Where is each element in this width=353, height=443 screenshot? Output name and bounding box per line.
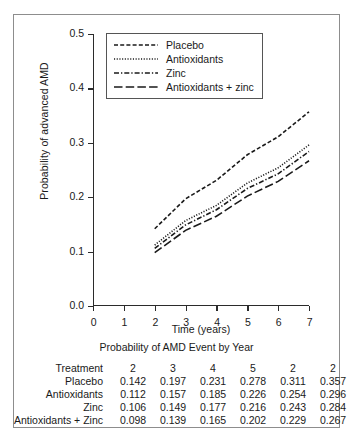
table-row-label: Antioxidants <box>14 387 113 400</box>
y-axis-title: Probability of advanced AMD <box>38 41 50 221</box>
legend-item-antioxidants-zinc: Antioxidants + zinc <box>113 80 254 94</box>
table-cell: 0.267 <box>313 414 353 427</box>
y-tick-label-0.4: 0.4 <box>69 81 84 93</box>
chart-legend: PlaceboAntioxidantsZincAntioxidants + zi… <box>106 33 263 99</box>
x-tick-7: 7 <box>309 306 310 311</box>
table-cell: 0.229 <box>273 414 313 427</box>
x-tick-4: 4 <box>216 306 217 311</box>
table-cell: 0.278 <box>233 374 273 387</box>
legend-item-placebo: Placebo <box>113 38 254 52</box>
x-tick-1: 1 <box>124 306 125 311</box>
legend-label: Placebo <box>166 39 204 51</box>
table-cell: 0.202 <box>233 414 273 427</box>
table-cell: 0.112 <box>113 387 153 400</box>
table-cell: 0.142 <box>113 374 153 387</box>
table-cell: 0.185 <box>193 387 233 400</box>
amd-probability-table: Treatment234522 Placebo0.1420.1970.2310.… <box>14 361 353 427</box>
table-col-header: 2 <box>273 361 313 374</box>
table-title: Probability of AMD Event by Year <box>14 341 339 353</box>
series-line-antioxidants <box>155 145 309 245</box>
table-row-label: Antioxidants + Zinc <box>14 414 113 427</box>
table-row-label: Zinc <box>14 401 113 414</box>
table-cell: 0.098 <box>113 414 153 427</box>
legend-line-swatch <box>113 67 159 79</box>
table-col-header: 5 <box>233 361 273 374</box>
table-head: Treatment234522 <box>14 361 353 374</box>
x-tick-3: 3 <box>186 306 187 311</box>
legend-label: Antioxidants + zinc <box>166 81 254 93</box>
data-table-block: Probability of AMD Event by Year Treatme… <box>14 341 339 427</box>
table-corner-header: Treatment <box>14 361 113 374</box>
table-cell: 0.284 <box>313 401 353 414</box>
table-cell: 0.177 <box>193 401 233 414</box>
y-tick-label-0.2: 0.2 <box>69 190 84 202</box>
y-tick-label-0.5: 0.5 <box>69 27 84 39</box>
table-cell: 0.311 <box>273 374 313 387</box>
figure-frame: Probability of advanced AMD 0.00.10.20.3… <box>13 14 340 428</box>
x-axis-title: Time (years) <box>93 323 309 335</box>
table-cell: 0.149 <box>153 401 193 414</box>
y-tick-label-0.3: 0.3 <box>69 136 84 148</box>
x-tick-5: 5 <box>247 306 248 311</box>
y-tick-label-0.0: 0.0 <box>69 299 84 311</box>
legend-item-zinc: Zinc <box>113 66 254 80</box>
table-col-header: 2 <box>313 361 353 374</box>
table-cell: 0.106 <box>113 401 153 414</box>
legend-label: Antioxidants <box>166 53 223 65</box>
x-tick-6: 6 <box>278 306 279 311</box>
plot-panel: Probability of advanced AMD 0.00.10.20.3… <box>14 15 339 315</box>
y-tick-label-0.1: 0.1 <box>69 245 84 257</box>
table-col-header: 4 <box>193 361 233 374</box>
table-row: Antioxidants0.1120.1570.1850.2260.2540.2… <box>14 387 353 400</box>
table-cell: 0.139 <box>153 414 193 427</box>
table-header-row: Treatment234522 <box>14 361 353 374</box>
table-cell: 0.197 <box>153 374 193 387</box>
series-line-placebo <box>155 112 309 229</box>
legend-item-antioxidants: Antioxidants <box>113 52 254 66</box>
table-row-label: Placebo <box>14 374 113 387</box>
table-cell: 0.216 <box>233 401 273 414</box>
table-cell: 0.357 <box>313 374 353 387</box>
table-cell: 0.157 <box>153 387 193 400</box>
table-col-header: 3 <box>153 361 193 374</box>
table-row: Zinc0.1060.1490.1770.2160.2430.284 <box>14 401 353 414</box>
table-row: Placebo0.1420.1970.2310.2780.3110.357 <box>14 374 353 387</box>
x-tick-0: 0 <box>93 306 94 311</box>
legend-label: Zinc <box>166 67 186 79</box>
table-cell: 0.254 <box>273 387 313 400</box>
table-body: Placebo0.1420.1970.2310.2780.3110.357Ant… <box>14 374 353 427</box>
legend-line-swatch <box>113 39 159 51</box>
table-cell: 0.296 <box>313 387 353 400</box>
table-col-header: 2 <box>113 361 153 374</box>
table-cell: 0.231 <box>193 374 233 387</box>
table-cell: 0.226 <box>233 387 273 400</box>
legend-line-swatch <box>113 53 159 65</box>
legend-line-swatch <box>113 81 159 93</box>
table-cell: 0.243 <box>273 401 313 414</box>
series-line-zinc <box>155 152 309 249</box>
x-tick-2: 2 <box>155 306 156 311</box>
table-cell: 0.165 <box>193 414 233 427</box>
table-row: Antioxidants + Zinc0.0980.1390.1650.2020… <box>14 414 353 427</box>
